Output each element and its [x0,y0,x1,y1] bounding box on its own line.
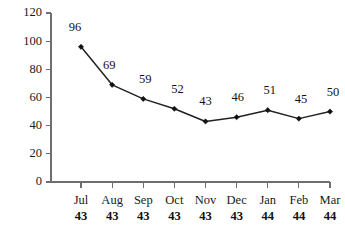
chart-canvas: 020406080100120 Jul43Aug43Sep43Oct43Nov4… [0,0,345,237]
x-tick-label-year: 43 [168,209,181,223]
x-tick-label-month: Jul [74,193,89,207]
data-point-label: 43 [199,94,212,108]
x-tick-label-month: Jan [259,193,276,207]
x-tick-label-month: Nov [195,193,217,207]
x-tick-label-year: 44 [324,209,337,223]
data-point-label: 69 [103,58,116,72]
data-point-label: 50 [327,85,340,99]
line-chart: 020406080100120 Jul43Aug43Sep43Oct43Nov4… [0,0,345,237]
x-tick-label-month: Feb [290,193,309,207]
y-tick-label: 60 [30,90,43,104]
x-tick-label-month: Dec [227,193,248,207]
x-tick-label-year: 43 [106,209,119,223]
data-point-label: 46 [231,90,244,104]
x-tick-label-year: 44 [293,209,306,223]
data-point-label: 51 [264,83,277,97]
x-tick-label-month: Mar [320,193,342,207]
y-tick-label: 40 [30,118,43,132]
y-tick-label: 20 [30,146,43,160]
x-tick-label-year: 43 [230,209,243,223]
data-point-label: 96 [69,20,82,34]
y-tick-label: 80 [30,62,43,76]
y-tick-label: 100 [23,34,42,48]
x-tick-label-month: Oct [165,193,184,207]
x-tick-label-year: 44 [262,209,275,223]
x-tick-label-year: 43 [137,209,150,223]
data-point-label: 52 [171,82,184,96]
y-tick-label: 120 [23,5,42,19]
x-tick-label-month: Sep [134,193,153,207]
x-tick-label-year: 43 [199,209,212,223]
x-tick-label-month: Aug [101,193,123,207]
data-point-label: 45 [295,92,308,106]
data-point-label: 59 [139,72,152,86]
y-tick-label: 0 [36,174,42,188]
x-tick-label-year: 43 [75,209,88,223]
